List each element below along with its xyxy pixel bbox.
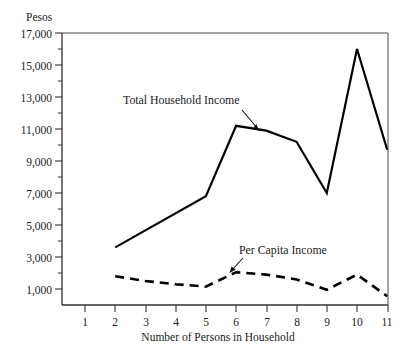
x-tick-label: 7 [264,316,270,328]
y-axis-title: Pesos [26,11,53,23]
y-tick-label: 17,000 [20,28,52,41]
y-tick-label: 1,000 [26,284,52,297]
x-tick-label: 3 [143,316,149,328]
x-axis-ticks [85,305,388,312]
series-total-household-income [115,49,387,247]
x-tick-label: 8 [294,316,300,328]
annotation-label: Per Capita Income [239,243,327,257]
y-tick-label: 5,000 [26,220,52,233]
y-tick-label: 15,000 [20,60,52,73]
x-tick-label: 9 [324,316,330,328]
x-tick-label: 2 [112,316,118,328]
annotation-label: Total Household Income [123,93,239,107]
x-tick-label: 11 [381,316,392,328]
x-tick-label: 10 [351,316,363,328]
y-tick-label: 13,000 [20,92,52,105]
y-tick-label: 9,000 [26,156,52,169]
y-axis-ticks [55,33,62,289]
x-axis-title: Number of Persons in Household [141,331,295,343]
y-tick-label: 3,000 [26,252,52,265]
chart-figure: Pesos 17,000 15,000 13,000 [0,0,408,348]
y-tick-label: 7,000 [26,188,52,201]
x-tick-label: 6 [233,316,239,328]
line-chart-svg: Pesos 17,000 15,000 13,000 [0,0,408,348]
x-tick-label: 4 [173,316,179,328]
series-per-capita-income [115,272,387,296]
annotation-per-capita-income: Per Capita Income [230,243,327,273]
x-tick-label: 5 [203,316,209,328]
plot-frame [62,33,388,305]
x-tick-label: 1 [82,316,88,328]
y-axis-tick-labels: 17,000 15,000 13,000 11,000 9,000 7,000 … [20,28,52,297]
y-tick-label: 11,000 [21,124,52,137]
x-axis-tick-labels: 1 2 3 4 5 6 7 8 9 10 11 [82,316,393,328]
